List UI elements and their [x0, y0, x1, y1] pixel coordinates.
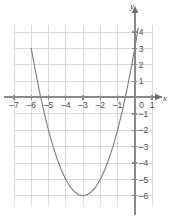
- y-axis-label: y: [129, 1, 134, 11]
- x-tick-labels: –7–6–5–4–3–2–101: [9, 100, 154, 110]
- y-tick-label: –6: [139, 191, 149, 201]
- parabola-plot: –7–6–5–4–3–2–101 4321–1–2–3–4–5–6 x y: [0, 0, 172, 219]
- y-tick-label: –2: [139, 125, 149, 135]
- x-tick-label: –7: [9, 100, 19, 110]
- x-axis-label: x: [162, 93, 167, 103]
- x-tick-label: –4: [61, 100, 71, 110]
- x-axis-arrow-icon: [155, 94, 162, 101]
- graph-figure: –7–6–5–4–3–2–101 4321–1–2–3–4–5–6 x y: [0, 0, 172, 219]
- y-tick-label: –4: [139, 158, 149, 168]
- x-tick-label: –2: [96, 100, 106, 110]
- y-tick-label: –5: [139, 175, 149, 185]
- y-tick-label: 1: [139, 76, 144, 86]
- parabola-curve: [31, 28, 138, 196]
- x-tick-label: –1: [113, 100, 123, 110]
- y-tick-label: –1: [139, 109, 149, 119]
- x-tick-label: –3: [78, 100, 88, 110]
- y-tick-label: 2: [139, 60, 144, 70]
- x-tick-label: 1: [150, 100, 155, 110]
- x-tick-label: –6: [27, 100, 37, 110]
- y-tick-label: 3: [139, 44, 144, 54]
- x-tick-label: –5: [44, 100, 54, 110]
- vertical-gridlines: [14, 25, 152, 205]
- y-tick-label: 4: [139, 27, 144, 37]
- y-tick-label: –3: [139, 142, 149, 152]
- y-tick-labels: 4321–1–2–3–4–5–6: [139, 27, 149, 201]
